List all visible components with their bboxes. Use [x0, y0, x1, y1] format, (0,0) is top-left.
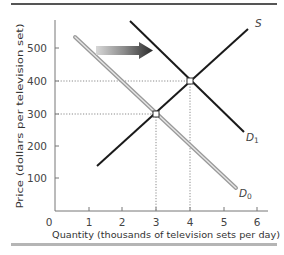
- origin-label: 0: [46, 216, 53, 228]
- demand-curve-d1: [130, 21, 244, 132]
- top-rule: [11, 3, 277, 5]
- x-tick-label: 2: [119, 216, 126, 228]
- equilibrium-point-new: [187, 78, 193, 84]
- supply-demand-chart: 500 400 300 200 100 0 1 2 3 4 5 6 Quanti…: [0, 0, 284, 255]
- y-axis-title: Price (dollars per television set): [14, 24, 25, 209]
- d1-label-sub: 1: [254, 136, 259, 145]
- x-tick-label: 5: [221, 216, 228, 228]
- y-tick-label: 400: [27, 75, 47, 87]
- x-tick-label: 1: [86, 216, 93, 228]
- d0-label-sub: 0: [247, 192, 252, 201]
- d0-label: D0: [239, 187, 252, 201]
- d0-label-main: D: [239, 187, 247, 199]
- demand-shift-arrow-icon: [96, 42, 153, 59]
- x-tick-label: 4: [187, 216, 194, 228]
- d1-label: D1: [246, 131, 259, 145]
- supply-label: S: [255, 17, 262, 29]
- y-tick-label: 300: [27, 108, 47, 120]
- x-tick-label: 6: [254, 216, 261, 228]
- x-ticks: [89, 207, 257, 211]
- bottom-rule: [11, 243, 277, 246]
- equilibrium-point-initial: [153, 111, 159, 117]
- y-tick-label: 200: [27, 140, 47, 152]
- y-ticks: [55, 48, 59, 178]
- d1-label-main: D: [246, 131, 254, 143]
- y-tick-label: 100: [27, 172, 47, 184]
- x-axis-title: Quantity (thousands of television sets p…: [52, 229, 280, 240]
- y-tick-label: 500: [27, 42, 47, 54]
- x-tick-label: 3: [153, 216, 160, 228]
